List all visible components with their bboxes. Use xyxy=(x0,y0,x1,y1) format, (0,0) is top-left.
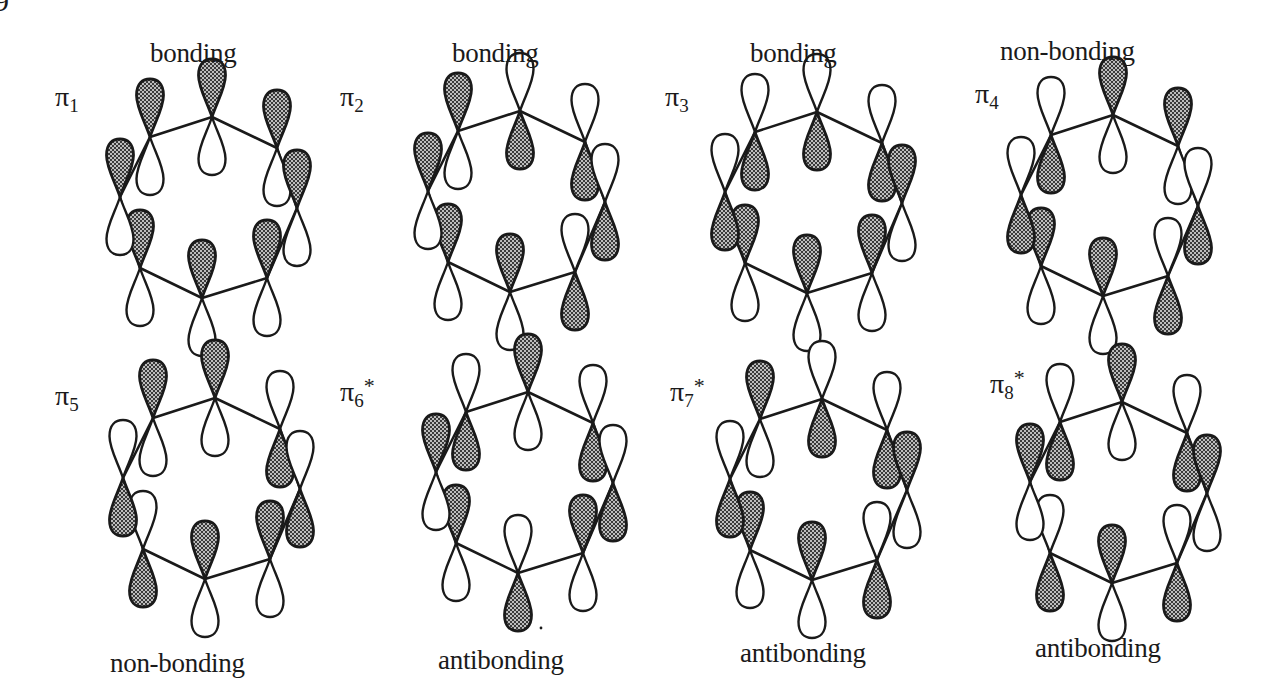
p-orbital-upper-left xyxy=(1038,77,1065,193)
p-orbital-bottom xyxy=(192,521,219,637)
shaded-lobe xyxy=(415,133,442,191)
p-orbital-right xyxy=(889,145,916,261)
p-orbital-upper-left xyxy=(137,79,164,195)
orbital-panel-pi7 xyxy=(717,341,921,638)
open-lobe xyxy=(107,197,134,255)
open-lobe xyxy=(1017,482,1044,540)
shaded-lobe xyxy=(1047,422,1074,480)
open-lobe xyxy=(1100,115,1127,173)
open-lobe xyxy=(127,268,154,326)
shaded-lobe xyxy=(864,560,891,618)
shaded-lobe xyxy=(264,90,291,148)
orbital-panel-pi2 xyxy=(415,53,619,350)
orbital-panel-pi6 xyxy=(423,334,627,631)
open-lobe xyxy=(809,341,836,399)
open-lobe xyxy=(717,421,744,479)
cyclooctatetraene-pi-mo-figure: 9 π1bondingπ2bondingπ3bondingπ4non-bondi… xyxy=(0,0,1276,693)
orbital-symbol-pi4: π4 xyxy=(975,80,999,108)
shaded-lobe xyxy=(592,202,619,260)
open-lobe xyxy=(869,85,896,143)
shaded-lobe xyxy=(742,132,769,190)
open-lobe xyxy=(453,354,480,412)
open-lobe xyxy=(140,418,167,476)
open-lobe xyxy=(572,84,599,142)
shaded-lobe xyxy=(110,478,137,536)
p-orbital-upper-right xyxy=(1174,375,1201,491)
open-lobe xyxy=(712,134,739,192)
open-lobe xyxy=(423,472,450,530)
antibonding-star: * xyxy=(694,373,705,398)
p-orbital-lower-right xyxy=(1155,218,1182,334)
shaded-lobe xyxy=(1037,553,1064,611)
shaded-lobe xyxy=(859,215,886,273)
p-orbital-upper-left xyxy=(453,354,480,470)
shaded-lobe xyxy=(1099,525,1126,583)
p-orbital-lower-right xyxy=(864,502,891,618)
p-orbital-top xyxy=(202,340,229,456)
open-lobe xyxy=(1047,364,1074,422)
orbital-index: 6 xyxy=(354,390,364,411)
p-orbital-upper-right xyxy=(1165,88,1192,204)
shaded-lobe xyxy=(1155,276,1182,334)
p-orbital-left xyxy=(107,139,134,255)
p-orbital-upper-right xyxy=(869,85,896,201)
shaded-lobe xyxy=(202,340,229,398)
pi-glyph: π xyxy=(340,376,354,407)
open-lobe xyxy=(737,550,764,608)
open-lobe xyxy=(874,372,901,430)
open-lobe xyxy=(799,580,826,638)
open-lobe xyxy=(267,371,294,429)
p-orbital-upper-left xyxy=(445,73,472,189)
orbital-index: 4 xyxy=(989,92,999,113)
p-orbital-left xyxy=(717,421,744,537)
shaded-lobe xyxy=(1090,238,1117,296)
open-lobe xyxy=(1090,296,1117,354)
orbital-character-pi7: antibonding xyxy=(740,640,866,667)
orbital-character-pi3: bonding xyxy=(750,40,836,67)
shaded-lobe xyxy=(809,399,836,457)
p-orbital-upper-left xyxy=(140,360,167,476)
shaded-lobe xyxy=(570,495,597,553)
p-orbital-left xyxy=(415,133,442,249)
shaded-lobe xyxy=(254,220,281,278)
p-orbital-right xyxy=(1194,435,1221,551)
p-orbital-top xyxy=(1100,57,1127,173)
open-lobe xyxy=(1008,137,1035,195)
orbital-character-pi5: non-bonding xyxy=(110,650,245,677)
orbital-character-pi4: non-bonding xyxy=(1000,38,1135,65)
open-lobe xyxy=(894,490,921,548)
p-orbital-bottom xyxy=(799,522,826,638)
p-orbital-upper-left xyxy=(1047,364,1074,480)
p-orbital-lower-right xyxy=(562,214,589,330)
shaded-lobe xyxy=(192,521,219,579)
p-orbital-left xyxy=(423,414,450,530)
open-lobe xyxy=(889,203,916,261)
shaded-lobe xyxy=(1008,195,1035,253)
open-lobe xyxy=(192,579,219,637)
open-lobe xyxy=(864,502,891,560)
p-orbital-bottom xyxy=(497,234,524,350)
open-lobe xyxy=(859,273,886,331)
p-orbital-lower-right xyxy=(1164,505,1191,621)
orbital-symbol-pi2: π2 xyxy=(340,83,364,111)
orbital-index: 3 xyxy=(679,95,689,116)
shaded-lobe xyxy=(747,361,774,419)
open-lobe xyxy=(570,553,597,611)
p-orbital-lower-right xyxy=(570,495,597,611)
shaded-lobe xyxy=(717,479,744,537)
orbital-index: 2 xyxy=(354,95,364,116)
pi-glyph: π xyxy=(665,81,679,112)
open-lobe xyxy=(1038,77,1065,135)
open-lobe xyxy=(580,365,607,423)
shaded-lobe xyxy=(562,272,589,330)
p-orbital-upper-right xyxy=(874,372,901,488)
open-lobe xyxy=(1028,266,1055,324)
open-lobe xyxy=(202,398,229,456)
p-orbital-bottom xyxy=(189,240,216,356)
open-lobe xyxy=(110,420,137,478)
antibonding-star: * xyxy=(1014,365,1025,390)
orbital-symbol-pi6: π6* xyxy=(340,378,375,406)
orbital-symbol-pi7: π7* xyxy=(670,378,705,406)
shaded-lobe xyxy=(794,235,821,293)
shaded-lobe xyxy=(107,139,134,197)
